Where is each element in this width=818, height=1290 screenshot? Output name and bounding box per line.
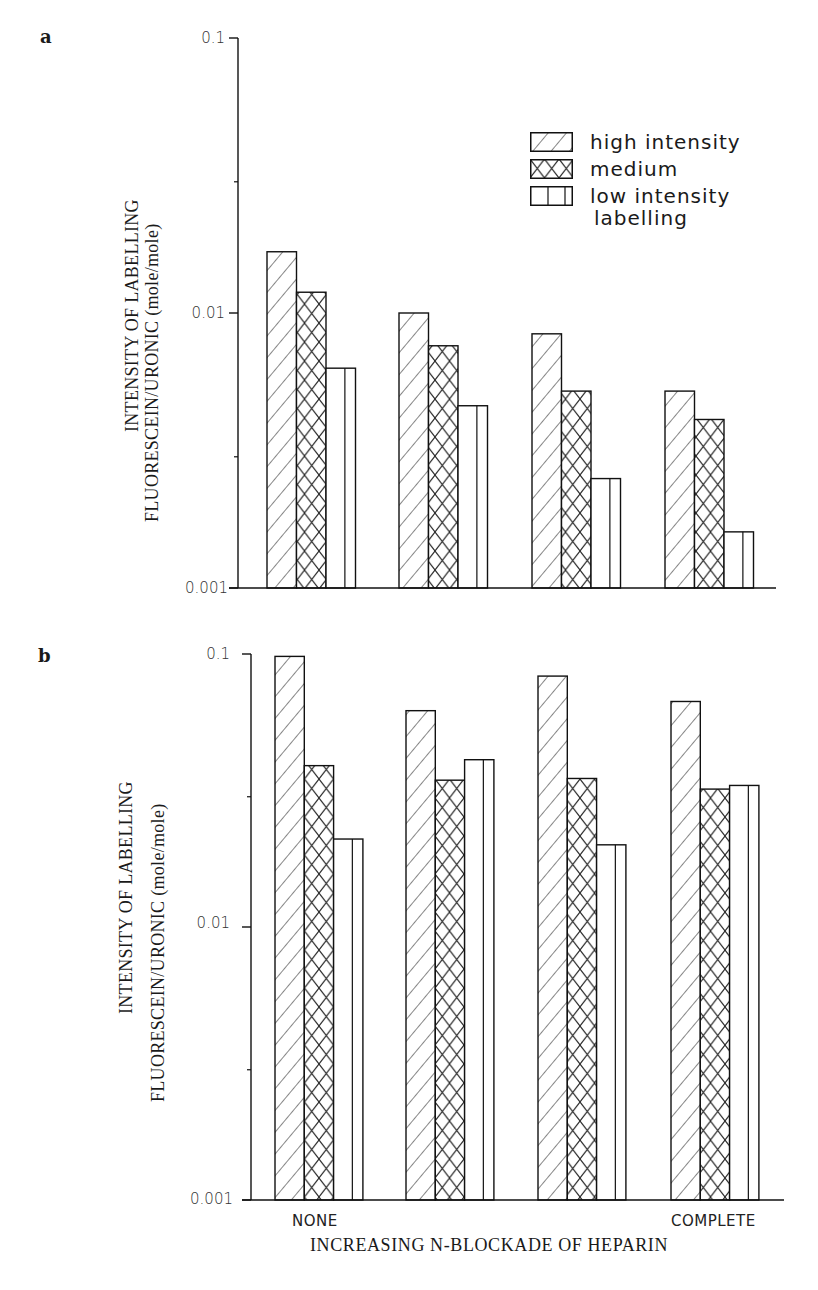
- bar-high-intensity-4: [671, 701, 700, 1200]
- bar-low-intensity-labelling-3: [597, 845, 626, 1200]
- bar-low-intensity-labelling-4: [730, 785, 759, 1200]
- bar-high-intensity-2: [399, 313, 429, 588]
- bar-low-intensity-labelling-2: [458, 406, 488, 588]
- panel-b-chart: [242, 654, 784, 1200]
- bar-low-intensity-labelling-3: [591, 479, 621, 588]
- bar-high-intensity-3: [538, 676, 567, 1200]
- bar-medium-1: [304, 766, 333, 1200]
- figure: a b INTENSITY OF LABELLING FLUORESCEIN/U…: [0, 0, 818, 1290]
- bar-medium-1: [297, 292, 327, 588]
- bar-high-intensity-4: [665, 391, 695, 588]
- bar-low-intensity-labelling-4: [724, 532, 754, 588]
- bar-high-intensity-2: [406, 711, 435, 1200]
- bar-high-intensity-1: [267, 252, 297, 588]
- bar-low-intensity-labelling-2: [465, 760, 494, 1200]
- panel-a-chart: [229, 38, 776, 588]
- bar-low-intensity-labelling-1: [334, 839, 363, 1200]
- bar-medium-3: [567, 778, 596, 1200]
- bar-medium-2: [429, 346, 459, 588]
- bar-medium-4: [700, 789, 729, 1200]
- bar-charts: [0, 0, 818, 1290]
- bar-medium-4: [695, 419, 725, 588]
- bar-high-intensity-3: [532, 334, 562, 588]
- bar-medium-2: [435, 780, 464, 1200]
- bar-low-intensity-labelling-1: [326, 368, 356, 588]
- bar-high-intensity-1: [275, 656, 304, 1200]
- bar-medium-3: [562, 391, 592, 588]
